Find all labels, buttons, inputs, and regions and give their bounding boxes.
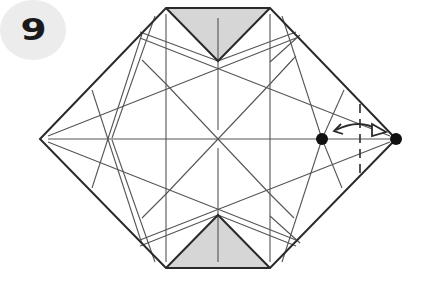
origami-diagram	[0, 0, 432, 287]
target-dot	[316, 133, 328, 145]
corner-dot	[390, 133, 402, 145]
